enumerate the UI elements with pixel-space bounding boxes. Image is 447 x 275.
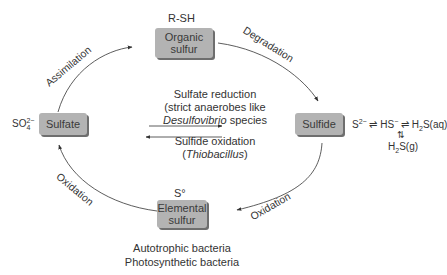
elemental-formula: S° <box>174 187 186 199</box>
node-elemental-sulfur: Elementalsulfur <box>157 200 207 228</box>
h2s-gas: H2S(g) <box>388 141 418 154</box>
organic-line2: sulfur <box>165 43 204 55</box>
node-sulfate: Sulfate <box>39 113 87 135</box>
bottom-line2: Photosynthetic bacteria <box>0 256 364 268</box>
organic-formula: R-SH <box>168 12 195 24</box>
sulfate-formula: SO2−4 <box>12 117 34 131</box>
bottom-line1: Autotrophic bacteria <box>0 242 364 254</box>
organic-line1: Organic <box>165 31 204 43</box>
node-organic-sulfur: Organicsulfur <box>155 28 213 58</box>
node-sulfide: Sulfide <box>295 113 343 135</box>
gas-equilibrium-arrow: ⇅ <box>397 130 405 140</box>
center-annotation: Sulfate reduction (strict anaerobes like… <box>140 88 290 161</box>
